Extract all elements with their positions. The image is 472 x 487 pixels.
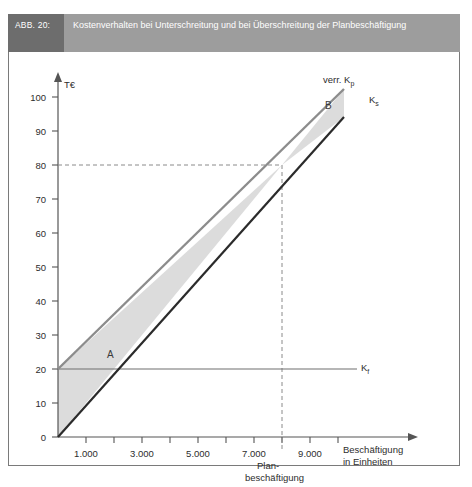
x-tick-label-5000: 5.000 — [178, 448, 218, 459]
y-tick-label-90: 90 — [20, 126, 46, 137]
y-tick-label-10: 10 — [20, 398, 46, 409]
shaded-area-a — [58, 165, 282, 437]
y-tick-label-40: 40 — [20, 296, 46, 307]
y-tick-label-50: 50 — [20, 262, 46, 273]
figure-caption-bar: ABB. 20: Kostenverhalten bei Unterschrei… — [8, 14, 460, 52]
y-axis-ticks — [52, 97, 58, 437]
kp-line — [58, 89, 344, 369]
legend-kp-subscript: p — [350, 80, 354, 87]
figure-number-tag: ABB. 20: — [8, 14, 64, 52]
legend-kp-main: verr. K — [323, 74, 350, 85]
legend-kf-subscript: f — [367, 368, 369, 375]
y-tick-label-100: 100 — [20, 92, 46, 103]
x-tick-label-9000: 9.000 — [290, 448, 330, 459]
y-axis-arrow — [54, 72, 62, 82]
legend-kf: Kf — [361, 362, 369, 375]
region-a-label: A — [107, 349, 114, 360]
y-tick-label-70: 70 — [20, 194, 46, 205]
y-tick-label-20: 20 — [20, 364, 46, 375]
y-tick-label-80: 80 — [20, 160, 46, 171]
region-b-label: B — [325, 100, 332, 111]
y-axis-title: T€ — [64, 79, 75, 90]
x-axis-arrow — [408, 433, 418, 441]
chart-svg — [9, 52, 459, 464]
x-axis-ticks — [86, 437, 338, 443]
x-axis-title-line1: Beschäftigung — [343, 444, 403, 455]
x-tick-label-1000: 1.000 — [66, 448, 106, 459]
planbeschaeftigung-label-line1: Plan- — [257, 460, 279, 471]
figure-container: ABB. 20: Kostenverhalten bei Unterschrei… — [8, 14, 460, 466]
legend-ks: Ks — [369, 94, 379, 107]
legend-kp: verr. Kp — [323, 74, 354, 87]
x-axis-title-line2: in Einheiten — [343, 456, 393, 467]
planbeschaeftigung-label-line2: beschäftigung — [245, 472, 304, 483]
plot-frame: 100 90 80 70 60 50 40 30 20 10 0 T€ 1.00… — [8, 52, 460, 466]
y-tick-label-0: 0 — [20, 432, 46, 443]
x-tick-label-7000: 7.000 — [234, 448, 274, 459]
y-tick-label-60: 60 — [20, 228, 46, 239]
figure-title: Kostenverhalten bei Unterschreitung und … — [64, 14, 460, 52]
x-tick-label-3000: 3.000 — [122, 448, 162, 459]
y-tick-label-30: 30 — [20, 330, 46, 341]
legend-ks-subscript: s — [375, 100, 379, 107]
